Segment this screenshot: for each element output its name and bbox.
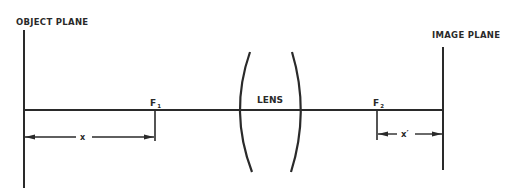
f1-subscript: 1 [157,103,161,109]
arrow-right-icon [144,135,154,140]
image-plane-label: IMAGE PLANE [432,30,500,40]
svg-text:F2: F2 [373,98,384,109]
x-prime-dimension: x′ [378,129,442,139]
lens-label: LENS [257,95,283,105]
f1-label: F [150,98,156,108]
x-prime-label: x′ [401,129,409,139]
arrow-left-icon [378,132,388,137]
arrow-left-icon [25,135,35,140]
arrow-right-icon [432,132,442,137]
focal-point-f1: F1 [150,98,161,141]
lens-diagram: OBJECT PLANE IMAGE PLANE LENS F1 F2 x x′ [0,0,527,189]
lens-left-surface [240,52,252,172]
f2-label: F [373,98,379,108]
lens-right-surface [291,52,301,172]
x-dimension: x [25,133,154,142]
object-plane-label: OBJECT PLANE [16,17,88,27]
f2-subscript: 2 [380,103,384,109]
svg-text:F1: F1 [150,98,161,109]
x-label: x [80,133,86,142]
